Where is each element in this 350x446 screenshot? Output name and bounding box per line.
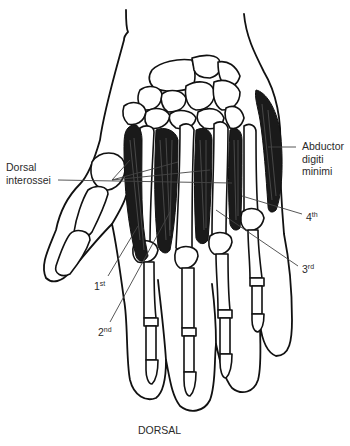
label-third: 3rd	[302, 263, 314, 276]
caption-dorsal: DORSAL	[138, 424, 181, 437]
carpal-bones	[123, 55, 244, 128]
label-dorsal-interossei: Dorsal interossei	[6, 161, 51, 186]
label-abductor-digiti-minimi: Abductor digiti minimi	[302, 140, 344, 178]
hand-dorsal-illustration	[0, 0, 350, 446]
label-second: 2nd	[98, 326, 112, 339]
label-fourth: 4th	[306, 211, 318, 224]
label-first: 1st	[94, 280, 105, 293]
thumb-bones	[56, 153, 125, 276]
